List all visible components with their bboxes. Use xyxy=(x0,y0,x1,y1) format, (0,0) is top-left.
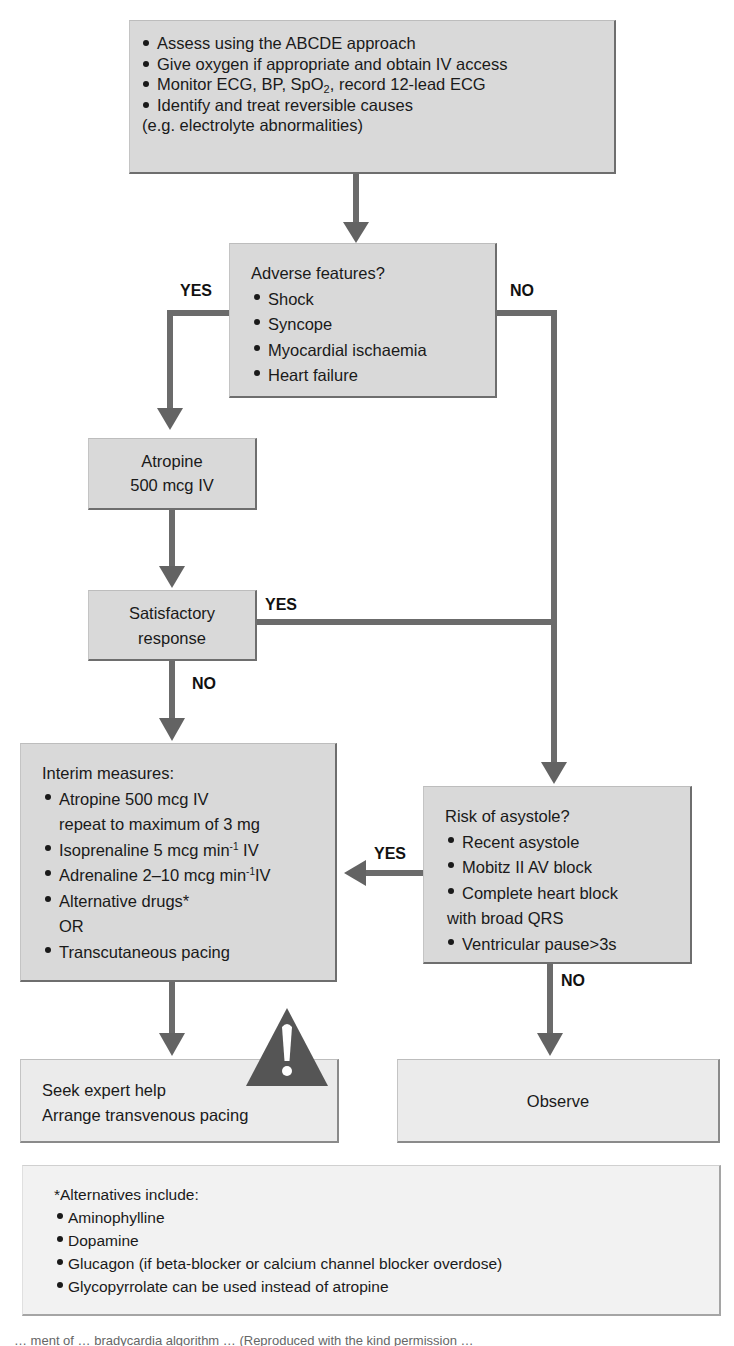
alternatives-heading: *Alternatives include: xyxy=(54,1183,711,1206)
alternatives-item: Glycopyrrolate can be used instead of at… xyxy=(54,1275,711,1298)
arrowhead-icon xyxy=(157,408,183,430)
asystole-item-cont: with broad QRS xyxy=(445,906,682,932)
edge-label-asystole-no: NO xyxy=(561,972,585,990)
asystole-item: Recent asystole xyxy=(445,830,682,856)
atropine-line2: 500 mcg IV xyxy=(89,473,255,497)
initial-item: Assess using the ABCDE approach xyxy=(140,33,604,54)
interim-item-isoprenaline: Isoprenaline 5 mcg min-1 IV xyxy=(42,838,327,864)
interim-item-alternative: Alternative drugs* xyxy=(42,889,327,915)
edge-label-adverse-yes: YES xyxy=(180,282,212,300)
arrowhead-icon xyxy=(159,1033,185,1056)
node-initial-assessment: Assess using the ABCDE approach Give oxy… xyxy=(129,20,616,174)
node-interim-measures: Interim measures: Atropine 500 mcg IV re… xyxy=(20,743,337,982)
asystole-item: Complete heart block xyxy=(445,881,682,907)
asystole-item: Ventricular pause>3s xyxy=(445,932,682,958)
alternatives-item: Aminophylline xyxy=(54,1206,711,1229)
satisfactory-line1: Satisfactory xyxy=(89,601,255,626)
alternatives-item: Dopamine xyxy=(54,1229,711,1252)
arrowhead-icon xyxy=(537,1033,563,1056)
arrowhead-icon xyxy=(159,718,185,741)
initial-item: Identify and treat reversible causes xyxy=(140,95,604,116)
warning-triangle-icon xyxy=(244,1005,330,1089)
edge-adverse-no xyxy=(497,313,554,765)
adverse-item: Shock xyxy=(251,287,485,313)
adverse-item: Heart failure xyxy=(251,363,485,389)
adverse-heading: Adverse features? xyxy=(251,261,485,287)
interim-item-atropine: Atropine 500 mcg IV xyxy=(42,787,327,813)
asystole-heading: Risk of asystole? xyxy=(445,804,682,830)
edge-adverse-yes xyxy=(170,313,229,412)
initial-continuation: (e.g. electrolyte abnormalities) xyxy=(140,115,604,136)
initial-item-monitor: Monitor ECG, BP, SpO2, record 12-lead EC… xyxy=(140,74,604,95)
arrowhead-icon xyxy=(344,860,366,886)
observe-text: Observe xyxy=(527,1092,589,1110)
arrowhead-icon xyxy=(343,222,369,243)
node-adverse-features: Adverse features? Shock Syncope Myocardi… xyxy=(229,243,497,398)
node-alternatives-footnote: *Alternatives include: Aminophylline Dop… xyxy=(22,1165,721,1316)
satisfactory-line2: response xyxy=(89,626,255,651)
interim-item-adrenaline: Adrenaline 2–10 mcg min-1IV xyxy=(42,863,327,889)
arrowhead-icon xyxy=(541,762,567,784)
edge-label-asystole-yes: YES xyxy=(374,845,406,863)
interim-item-atropine-cont: repeat to maximum of 3 mg xyxy=(42,812,327,838)
node-satisfactory-response: Satisfactory response xyxy=(88,590,257,661)
node-atropine: Atropine 500 mcg IV xyxy=(88,438,257,510)
connectors xyxy=(0,0,734,1346)
figure-caption-fragment: … ment of … bradycardia algorithm … (Rep… xyxy=(14,1333,734,1346)
atropine-line1: Atropine xyxy=(89,449,255,473)
initial-item: Give oxygen if appropriate and obtain IV… xyxy=(140,54,604,75)
edge-label-satisfactory-yes: YES xyxy=(265,596,297,614)
alternatives-item: Glucagon (if beta-blocker or calcium cha… xyxy=(54,1252,711,1275)
edge-label-satisfactory-no: NO xyxy=(192,675,216,693)
interim-item-pacing: Transcutaneous pacing xyxy=(42,940,327,966)
edge-label-adverse-no: NO xyxy=(510,282,534,300)
adverse-item: Syncope xyxy=(251,312,485,338)
interim-item-or: OR xyxy=(42,914,327,940)
expert-line2: Arrange transvenous pacing xyxy=(42,1103,329,1128)
adverse-item: Myocardial ischaemia xyxy=(251,338,485,364)
node-risk-of-asystole: Risk of asystole? Recent asystole Mobitz… xyxy=(423,786,692,964)
node-observe: Observe xyxy=(397,1059,720,1143)
interim-heading: Interim measures: xyxy=(42,761,327,787)
asystole-item: Mobitz II AV block xyxy=(445,855,682,881)
arrowhead-icon xyxy=(159,566,185,588)
